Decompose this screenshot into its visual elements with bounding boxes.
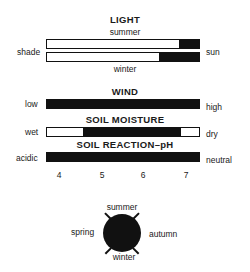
ph-tick-4: 4 xyxy=(49,170,69,180)
wind-title: WIND xyxy=(0,86,250,97)
wind-low-label: low xyxy=(25,99,38,109)
soil-ph-bar xyxy=(46,152,200,162)
wind-high-label: high xyxy=(206,102,222,112)
wind-bar xyxy=(46,99,200,109)
light-title: LIGHT xyxy=(0,14,250,25)
season-tick-ne xyxy=(133,212,140,219)
season-tick-nw xyxy=(105,212,112,219)
season-spring-label: spring xyxy=(71,227,94,237)
season-autumn-label: autumn xyxy=(149,229,177,239)
soil-ph-title: SOIL REACTION–pH xyxy=(0,139,250,150)
light-winter-label: winter xyxy=(0,64,250,74)
soil-ph-neutral-label: neutral xyxy=(206,155,232,165)
light-shade-label: shade xyxy=(17,47,40,57)
season-summer-label: summer xyxy=(0,202,244,212)
light-summer-fill xyxy=(179,40,199,48)
light-winter-bar xyxy=(46,52,200,62)
soil-moisture-title: SOIL MOISTURE xyxy=(0,114,250,125)
soil-moisture-fill xyxy=(83,128,180,136)
light-summer-bar xyxy=(46,39,200,49)
season-winter-label: winter xyxy=(0,252,248,262)
soil-moisture-wet-label: wet xyxy=(25,127,38,137)
light-summer-label: summer xyxy=(0,27,250,37)
soil-moisture-bar xyxy=(46,127,200,137)
ph-tick-5: 5 xyxy=(92,170,112,180)
season-disc-icon xyxy=(103,214,141,252)
ph-tick-7: 7 xyxy=(176,170,196,180)
soil-moisture-dry-label: dry xyxy=(206,129,218,139)
light-sun-label: sun xyxy=(206,47,220,57)
light-winter-fill xyxy=(159,53,199,61)
soil-ph-acidic-label: acidic xyxy=(16,153,38,163)
ph-tick-6: 6 xyxy=(133,170,153,180)
